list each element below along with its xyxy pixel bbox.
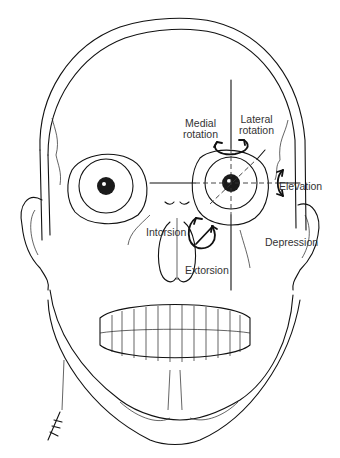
jaw-outline [50,290,293,420]
torsion-arrow [189,218,215,248]
intorsion-label: Intorsion [146,227,186,238]
lateral-rotation-label: Lateral rotation [239,114,274,136]
depression-label: Depression [265,237,318,248]
teeth [100,305,250,363]
lateral-rotation-line2: rotation [239,125,274,136]
medial-rotation-line2: rotation [183,129,218,140]
left-ear [21,198,48,290]
artist-signature [48,412,62,440]
extorsion-label: Extorsion [185,265,229,276]
left-eye [68,154,147,223]
medial-rotation-label: Medial rotation [183,118,218,140]
elevation-label: Elevation [279,181,322,192]
